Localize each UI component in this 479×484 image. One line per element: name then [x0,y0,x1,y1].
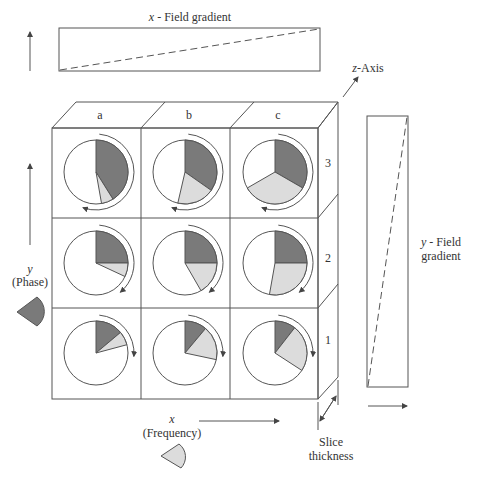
row-label-3: 3 [325,156,331,170]
pie-cell-a2 [64,225,134,295]
x-field-gradient-box [59,28,320,71]
row-label-2: 2 [325,251,331,265]
slice-label-line1: Slice [319,435,343,449]
y-axis-letter: y [26,262,33,276]
row-label-1: 1 [325,333,331,347]
column-label-c: c [275,108,280,122]
pie-cell-b3 [153,134,223,210]
pie-cell-a1 [64,315,134,385]
pie-cell-a3 [64,134,134,210]
z-axis-label: z-Axis [351,61,384,75]
pie-cell-c2 [243,225,313,295]
column-label-a: a [97,108,103,122]
phase-pies [64,134,313,385]
column-label-b: b [186,108,192,122]
frequency-light-wedge-icon [161,444,186,468]
x-field-gradient-label: x - Field gradient [148,10,232,24]
y-field-gradient-label-line1: y - Field [420,235,461,249]
y-field-gradient-box [367,116,408,387]
x-axis-name: (Frequency) [143,426,202,440]
mri-encoding-diagram: x - Field gradient z-Axis a b c 3 2 1 y … [0,0,479,484]
x-axis-letter: x [168,412,175,426]
phase-dark-wedge-icon [17,297,44,326]
pie-cell-c3 [243,134,313,210]
pie-cell-c1 [243,315,313,385]
slice-label-line2: thickness [309,449,354,463]
y-field-gradient-label-line2: gradient [421,249,461,263]
pie-cell-b1 [153,315,223,385]
pie-cell-b2 [153,225,223,295]
z-axis-arrow [343,77,358,97]
y-axis-name: (Phase) [12,275,48,289]
